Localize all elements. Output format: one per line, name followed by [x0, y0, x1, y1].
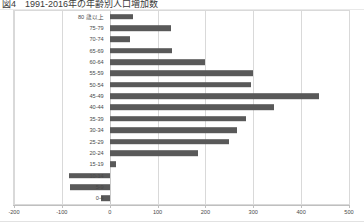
bar-row: 50-54	[14, 79, 349, 90]
bar-75-79	[110, 25, 171, 31]
category-label-70-74: 70-74	[89, 36, 103, 42]
bar-45-49	[110, 93, 319, 99]
category-label-45-49: 45-49	[89, 93, 103, 99]
category-label-10-14: 10-14	[89, 173, 103, 179]
bar-50-54	[110, 82, 252, 88]
bar-row: 80 歳以上	[14, 11, 349, 22]
bar-20-24	[110, 150, 199, 156]
category-label-60-64: 60-64	[89, 59, 103, 65]
plot-area: 80 歳以上75-7970-7465-6960-6455-5950-5445-4…	[14, 11, 349, 204]
bar-row: 10-14	[14, 170, 349, 181]
bar-60-64	[110, 59, 206, 65]
x-tick-label-400: 400	[296, 209, 305, 215]
bar-25-29	[110, 139, 230, 145]
category-label-55-59: 55-59	[89, 70, 103, 76]
x-tick-200	[205, 205, 206, 208]
bar-row: 75-79	[14, 22, 349, 33]
x-tick-300	[253, 205, 254, 208]
bar-row: 40-44	[14, 102, 349, 113]
bar-row: 0-4	[14, 193, 349, 204]
category-label-35-39: 35-39	[89, 116, 103, 122]
bar-row: 70-74	[14, 34, 349, 45]
x-tick--200	[14, 205, 15, 208]
bar-15-19	[110, 161, 116, 167]
bar-row: 65-69	[14, 45, 349, 56]
bar-row: 55-59	[14, 68, 349, 79]
category-label-0-4: 0-4	[96, 195, 104, 201]
x-tick-label-200: 200	[201, 209, 210, 215]
category-label-25-29: 25-29	[89, 139, 103, 145]
x-tick--100	[62, 205, 63, 208]
x-tick-label-0: 0	[108, 209, 111, 215]
x-tick-label-500: 500	[344, 209, 353, 215]
gridline-500	[349, 11, 350, 204]
figure-container: 図4 1991-2016年の年齢別人口増加数 80 歳以上75-7970-746…	[0, 0, 364, 222]
bar-row: 30-34	[14, 125, 349, 136]
x-axis: -200-1000100200300400500	[13, 205, 350, 219]
x-tick-100	[158, 205, 159, 208]
category-label-80 歳以上: 80 歳以上	[78, 13, 104, 21]
plot-frame: 80 歳以上75-7970-7465-6960-6455-5950-5445-4…	[13, 10, 350, 205]
x-tick-label-300: 300	[249, 209, 258, 215]
category-label-65-69: 65-69	[89, 48, 103, 54]
x-tick-label--100: -100	[56, 209, 67, 215]
x-tick-label-100: 100	[153, 209, 162, 215]
category-label-40-44: 40-44	[89, 104, 103, 110]
bar-row: 20-24	[14, 147, 349, 158]
category-label-30-34: 30-34	[89, 127, 103, 133]
bar-65-69	[110, 48, 172, 54]
category-label-5-9: 5-9	[96, 184, 104, 190]
x-tick-500	[349, 205, 350, 208]
x-tick-label--200: -200	[8, 209, 19, 215]
x-axis-line	[13, 205, 350, 206]
category-label-75-79: 75-79	[89, 25, 103, 31]
bar-row: 5-9	[14, 181, 349, 192]
chart-title: 図4 1991-2016年の年齢別人口増加数	[2, 0, 158, 10]
x-tick-400	[301, 205, 302, 208]
bar-row: 45-49	[14, 90, 349, 101]
bar-70-74	[110, 37, 131, 43]
bar-30-34	[110, 127, 237, 133]
bar-80 歳以上	[110, 14, 133, 20]
category-label-15-19: 15-19	[89, 161, 103, 167]
x-tick-0	[110, 205, 111, 208]
bar-55-59	[110, 71, 254, 77]
category-label-50-54: 50-54	[89, 82, 103, 88]
category-label-20-24: 20-24	[89, 150, 103, 156]
bar-40-44	[110, 105, 274, 111]
bar-35-39	[110, 116, 246, 122]
figure-bottom-rule	[0, 221, 364, 222]
bar-row: 25-29	[14, 136, 349, 147]
bar-row: 60-64	[14, 56, 349, 67]
bar-row: 35-39	[14, 113, 349, 124]
bar-row: 15-19	[14, 159, 349, 170]
